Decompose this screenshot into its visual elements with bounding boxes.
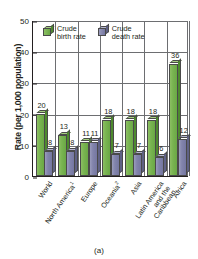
bar-group: 187 (122, 21, 144, 176)
bar-value-label: 6 (159, 144, 163, 153)
bar-death-rate (133, 154, 142, 176)
legend-item-birth: Crudebirth rate (43, 25, 86, 42)
bar-group: 186 (144, 21, 166, 176)
bar-value-label: 18 (149, 107, 157, 116)
bar-value-label: 8 (70, 138, 74, 147)
bar-value-label: 20 (37, 101, 45, 110)
bar-value-label: 36 (171, 51, 179, 60)
legend-label-birth: Crudebirth rate (57, 25, 86, 42)
x-axis-label: World (37, 180, 54, 200)
bar-value-label: 11 (82, 129, 90, 138)
legend-label-death: Crudedeath rate (112, 25, 145, 42)
y-axis-tick-label: 10 (20, 141, 33, 150)
bar-value-label: 7 (137, 141, 141, 150)
y-axis-tick-label: 50 (20, 17, 33, 26)
x-axis-label: Africa (171, 180, 188, 199)
y-axis-tick-label: 30 (20, 79, 33, 88)
bar-death-rate (178, 139, 187, 176)
bar-value-label: 11 (91, 129, 99, 138)
bar-value-label: 12 (180, 126, 188, 135)
bar-group: 138 (55, 21, 77, 176)
bar-death-rate (89, 142, 98, 176)
y-axis-title: Rate (per 1,000 population) (13, 17, 23, 177)
bar-group: 187 (100, 21, 122, 176)
plot-area: 0102030405020813811111871871863612 (32, 21, 188, 177)
bar-value-label: 18 (104, 107, 112, 116)
x-axis-label: Oceania2 (98, 180, 123, 210)
figure-caption: (a) (0, 246, 198, 255)
bar-group: 3612 (167, 21, 189, 176)
y-axis-tick-label: 20 (20, 110, 33, 119)
y-axis-tick-label: 40 (20, 48, 33, 57)
legend-item-death: Crudedeath rate (98, 25, 145, 42)
bar-value-label: 18 (127, 107, 135, 116)
x-axis-label: Europe (79, 180, 99, 203)
bar-group: 1111 (78, 21, 100, 176)
bar-group: 208 (33, 21, 55, 176)
chart-legend: Crudebirth rate Crudedeath rate (43, 25, 148, 42)
x-axis-label: Asia (129, 180, 143, 196)
bar-death-rate (44, 151, 53, 176)
bar-death-rate (155, 157, 164, 176)
bar-value-label: 8 (48, 138, 52, 147)
x-axis-labels: WorldNorth America1EuropeOceania2AsiaLat… (32, 180, 188, 238)
figure: Rate (per 1,000 population) 010203040502… (0, 0, 198, 259)
green-cube-icon (43, 26, 54, 36)
bar-value-label: 7 (115, 141, 119, 150)
bar-death-rate (111, 154, 120, 176)
slate-cube-icon (98, 26, 109, 36)
bar-death-rate (66, 151, 75, 176)
bar-value-label: 13 (60, 122, 68, 131)
